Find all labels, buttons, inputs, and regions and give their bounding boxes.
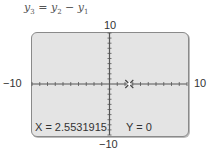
x-readout: X = 2.5531915 [35,121,107,133]
y-readout: Y = 0 [126,121,152,133]
axes [32,33,187,135]
